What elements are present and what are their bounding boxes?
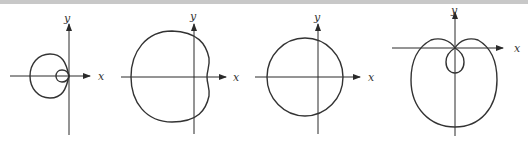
- x-axis-label: x: [233, 71, 240, 84]
- graph-panel-4: x y: [392, 4, 521, 136]
- x-axis-label: x: [514, 42, 521, 55]
- y-axis-label: y: [63, 12, 71, 25]
- polar-graphs-figure: x y x y x y x y: [0, 0, 528, 147]
- x-axis-label: x: [368, 71, 375, 84]
- y-axis-label: y: [313, 11, 321, 24]
- x-axis-label: x: [98, 70, 105, 83]
- y-axis-label: y: [450, 4, 458, 17]
- y-axis-label: y: [189, 10, 197, 23]
- polar-curve: [411, 39, 497, 127]
- graph-panel-2: x y: [121, 10, 240, 134]
- graph-panel-1: x y: [10, 12, 105, 135]
- graph-panel-3: x y: [255, 11, 375, 134]
